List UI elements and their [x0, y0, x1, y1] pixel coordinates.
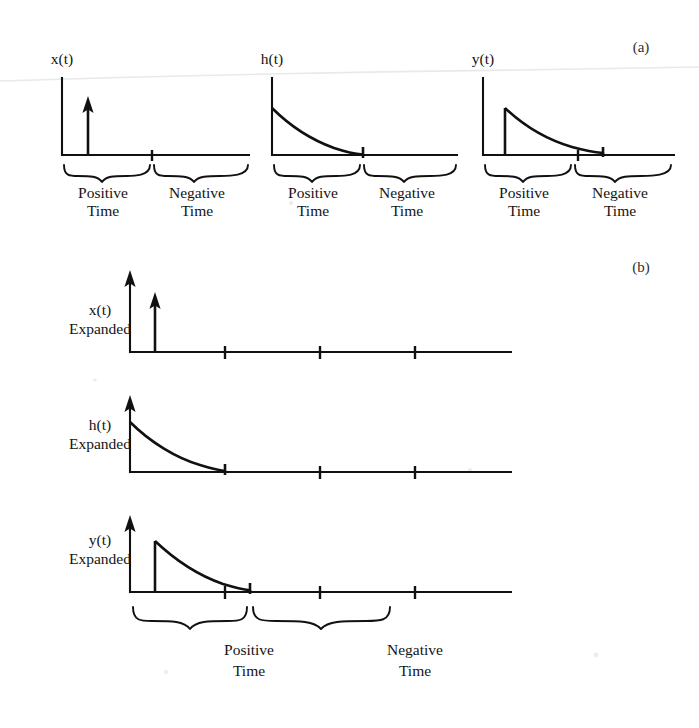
plot-b-xt-expanded: x(t) Expanded — [69, 270, 512, 359]
signal-label-yt: y(t) — [472, 50, 494, 68]
plot-a-yt: y(t) Positive Time Negative Time — [472, 50, 675, 219]
exponential-decay-curve — [505, 108, 603, 155]
brace-label-positive-line1: Positive — [78, 184, 128, 201]
scan-artifact-line — [0, 67, 699, 81]
signal-sublabel-ht-expanded: Expanded — [69, 435, 131, 452]
plot-a-ht: h(t) Positive Time Negative Time — [261, 50, 458, 219]
signal-label-xt-expanded: x(t) — [89, 301, 111, 319]
panel-marker-a: (a) — [633, 39, 650, 56]
brace-label-positive-line2: Time — [297, 202, 329, 219]
figure-container: (a) x(t) Positive Time Negative Time h(t… — [0, 0, 699, 728]
signal-label-ht-expanded: h(t) — [89, 416, 111, 434]
brace-label-positive-line1: Positive — [224, 641, 274, 658]
brace-negative-time — [253, 607, 390, 629]
signal-sublabel-xt-expanded: Expanded — [69, 320, 131, 337]
brace-negative-time — [154, 165, 248, 182]
scan-speck — [164, 670, 168, 674]
brace-label-negative-line2: Time — [604, 202, 636, 219]
signal-sublabel-yt-expanded: Expanded — [69, 550, 131, 567]
exponential-decay-curve — [272, 108, 363, 155]
brace-label-negative-line2: Time — [181, 202, 213, 219]
brace-positive-time — [133, 607, 247, 629]
brace-label-negative-line2: Time — [391, 202, 423, 219]
panel-marker-b: (b) — [632, 259, 650, 276]
brace-label-positive-line2: Time — [233, 662, 265, 679]
panel-b-braces: Positive Time Negative Time — [133, 607, 443, 679]
brace-negative-time — [364, 165, 456, 182]
brace-positive-time — [64, 165, 150, 182]
brace-positive-time — [274, 165, 360, 182]
scan-speck — [594, 653, 599, 658]
brace-label-negative-line1: Negative — [379, 184, 435, 201]
scan-speck — [93, 378, 97, 382]
brace-label-negative-line1: Negative — [387, 641, 443, 658]
brace-label-positive-line1: Positive — [288, 184, 338, 201]
convolution-figure: (a) x(t) Positive Time Negative Time h(t… — [0, 0, 699, 728]
brace-label-negative-line2: Time — [399, 662, 431, 679]
plot-b-yt-expanded: y(t) Expanded — [69, 515, 512, 599]
brace-label-positive-line2: Time — [508, 202, 540, 219]
exponential-decay-curve — [130, 422, 225, 472]
brace-label-negative-line1: Negative — [592, 184, 648, 201]
signal-label-ht: h(t) — [261, 50, 283, 68]
plot-b-ht-expanded: h(t) Expanded — [69, 395, 512, 479]
brace-label-negative-line1: Negative — [169, 184, 225, 201]
signal-label-yt-expanded: y(t) — [89, 531, 111, 549]
brace-label-positive-line1: Positive — [499, 184, 549, 201]
brace-label-positive-line2: Time — [87, 202, 119, 219]
exponential-decay-curve — [155, 541, 250, 592]
signal-label-xt: x(t) — [51, 50, 73, 68]
scan-speck — [289, 201, 293, 205]
brace-negative-time — [575, 165, 671, 182]
brace-positive-time — [485, 165, 571, 182]
